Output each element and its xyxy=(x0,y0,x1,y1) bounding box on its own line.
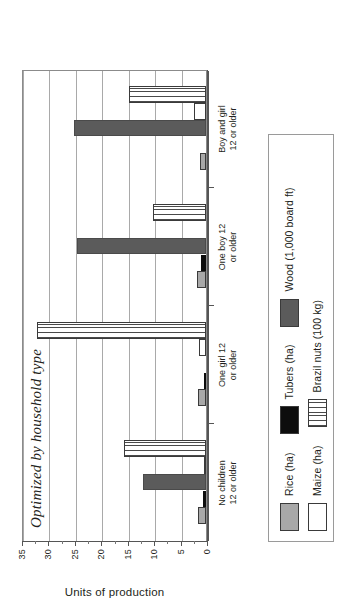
legend-item[interactable]: Wood (1,000 board ft) xyxy=(280,187,299,326)
value-axis-minor-tick xyxy=(141,541,142,544)
bar xyxy=(203,491,206,508)
category-label: One boy 12 or older xyxy=(217,192,239,302)
legend-row-2: Maize (ha)Brazil nuts (100 kg) xyxy=(305,282,329,531)
legend-label: Rice (ha) xyxy=(283,453,295,497)
plot-area xyxy=(22,70,207,542)
value-axis-tick xyxy=(181,541,182,546)
value-axis-label: 30 xyxy=(43,549,53,559)
bar xyxy=(198,390,206,407)
gridline xyxy=(49,71,50,541)
value-axis-label: 15 xyxy=(123,549,133,559)
bar xyxy=(129,86,206,103)
bar-chart-figure: 05101520253035 Units of production No ch… xyxy=(0,0,364,600)
gridline xyxy=(102,71,103,541)
legend-swatch-tubers xyxy=(280,407,299,435)
bar xyxy=(200,154,206,171)
value-axis-tick xyxy=(154,541,155,546)
bar xyxy=(124,440,206,457)
value-axis-minor-tick xyxy=(115,541,116,544)
value-axis: 05101520253035 xyxy=(22,541,207,542)
legend-swatch-rice xyxy=(280,503,299,531)
gridline xyxy=(76,71,77,541)
legend-label: Brazil nuts (100 kg) xyxy=(311,300,323,392)
bar xyxy=(204,457,206,474)
legend-item[interactable]: Brazil nuts (100 kg) xyxy=(308,300,327,427)
category-label: One girl 12 or older xyxy=(217,310,239,420)
value-axis-title: Units of production xyxy=(22,586,207,600)
bar xyxy=(199,339,206,356)
chart-title: Optimized by household type xyxy=(28,349,45,528)
legend-label: Maize (ha) xyxy=(311,445,323,496)
value-axis-minor-tick xyxy=(194,541,195,544)
gridline xyxy=(208,71,209,541)
category-axis-tick xyxy=(208,305,214,306)
bar xyxy=(198,508,206,525)
gridline xyxy=(23,71,24,541)
legend-swatch-wood xyxy=(280,299,299,327)
value-axis-tick xyxy=(75,541,76,546)
legend-item[interactable]: Tubers (ha) xyxy=(280,345,299,435)
bar xyxy=(143,474,206,491)
value-axis-minor-tick xyxy=(88,541,89,544)
legend-label: Wood (1,000 board ft) xyxy=(283,187,295,291)
category-axis-tick xyxy=(208,187,214,188)
bar xyxy=(37,322,206,339)
figure-page: 05101520253035 Units of production No ch… xyxy=(0,0,364,600)
value-axis-minor-tick xyxy=(167,541,168,544)
value-axis-minor-tick xyxy=(35,541,36,544)
value-axis-label: 35 xyxy=(17,549,27,559)
legend-item[interactable]: Rice (ha) xyxy=(280,453,299,532)
bar xyxy=(201,255,206,272)
legend-label: Tubers (ha) xyxy=(283,345,295,400)
bar xyxy=(153,204,206,221)
bar xyxy=(194,103,206,120)
chart-legend: Rice (ha)Tubers (ha)Wood (1,000 board ft… xyxy=(268,134,334,542)
category-label: Boy and girl 12 or older xyxy=(217,74,239,184)
value-axis-label: 0 xyxy=(202,549,212,554)
value-axis-label: 20 xyxy=(96,549,106,559)
category-label: No children 12 or older xyxy=(217,428,239,538)
value-axis-label: 10 xyxy=(149,549,159,559)
gridline xyxy=(129,71,130,541)
value-axis-tick xyxy=(101,541,102,546)
legend-swatch-brazil xyxy=(308,399,327,427)
category-axis: No children 12 or olderOne girl 12 or ol… xyxy=(207,70,208,542)
value-axis-tick xyxy=(22,541,23,546)
legend-swatch-maize xyxy=(308,503,327,531)
legend-row-1: Rice (ha)Tubers (ha)Wood (1,000 board ft… xyxy=(277,169,301,531)
gridline xyxy=(155,71,156,541)
category-axis-tick xyxy=(208,423,214,424)
value-axis-tick xyxy=(128,541,129,546)
bar xyxy=(74,120,206,137)
value-axis-tick xyxy=(48,541,49,546)
bar xyxy=(197,272,207,289)
bar xyxy=(77,238,207,255)
bar xyxy=(204,373,206,390)
value-axis-minor-tick xyxy=(62,541,63,544)
value-axis-label: 5 xyxy=(176,549,186,554)
value-axis-label: 25 xyxy=(70,549,80,559)
rotated-figure-container: 05101520253035 Units of production No ch… xyxy=(0,0,364,600)
gridline xyxy=(182,71,183,541)
legend-item[interactable]: Maize (ha) xyxy=(308,445,327,531)
